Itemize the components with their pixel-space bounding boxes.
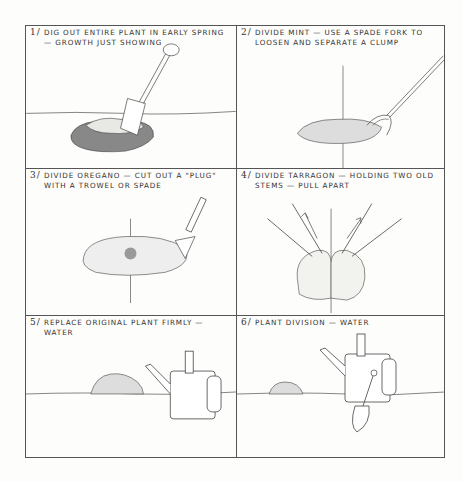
spade-fork-in-mint-icon — [237, 26, 445, 168]
panel-2: 2/ Divide mint — use a spade fork to loo… — [237, 26, 445, 169]
watering-can-replanted-icon — [26, 316, 236, 457]
trowel-cutting-oregano-icon — [26, 169, 236, 315]
spade-digging-plant-icon — [26, 26, 236, 168]
panel-4: 4/ Divide tarragon — holding two old ste… — [237, 169, 445, 316]
watering-can-trowel-division-icon — [237, 316, 445, 457]
instruction-sheet: 1/ Dig out entire plant in early spring … — [25, 25, 445, 458]
panel-3: 3/ Divide oregano — cut out a "plug" wit… — [26, 169, 237, 316]
panel-5: 5/ Replace original plant firmly — water — [26, 316, 237, 457]
panel-1: 1/ Dig out entire plant in early spring … — [26, 26, 237, 169]
panel-6: 6/ Plant division — water — [237, 316, 445, 457]
tarragon-pulled-apart-icon — [237, 169, 445, 315]
